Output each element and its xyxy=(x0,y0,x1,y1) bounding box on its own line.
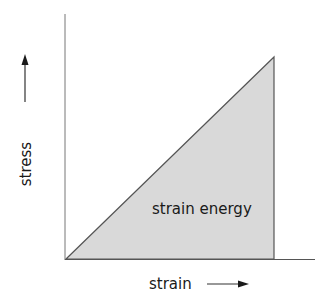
y-arrow-icon xyxy=(22,54,29,102)
strain-energy-label: strain energy xyxy=(152,200,252,218)
x-arrow-icon xyxy=(207,281,249,288)
y-axis-label: stress xyxy=(17,142,35,187)
stress-strain-diagram: stress strain strain energy xyxy=(0,0,315,308)
strain-energy-area xyxy=(66,57,274,259)
x-axis-label: strain xyxy=(149,275,192,293)
